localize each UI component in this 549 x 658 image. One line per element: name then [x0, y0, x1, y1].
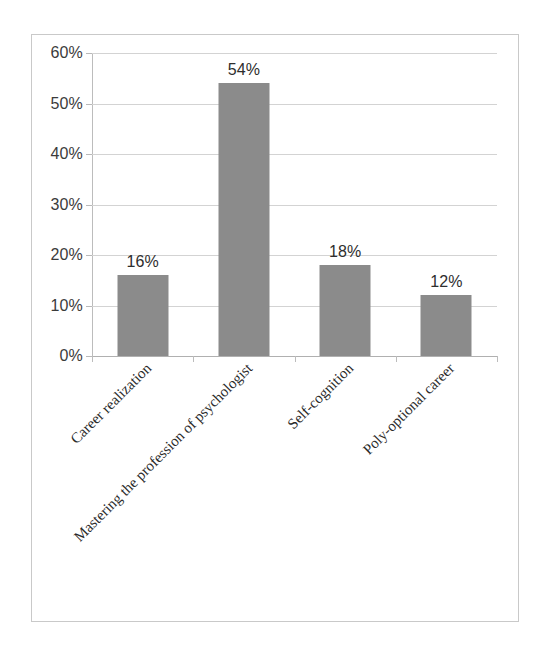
- bar-value-label: 54%: [228, 61, 260, 79]
- x-axis-tick-mark: [497, 356, 498, 362]
- y-axis-tick-label: 0%: [59, 347, 83, 365]
- y-axis-tick-label: 30%: [50, 196, 83, 214]
- bar[interactable]: [218, 83, 269, 356]
- y-axis-tick-label: 50%: [50, 95, 83, 113]
- bar-value-label: 16%: [127, 253, 159, 271]
- x-axis-tick-mark: [396, 356, 397, 362]
- y-axis-tick-label: 10%: [50, 297, 83, 315]
- bar-value-label: 12%: [430, 273, 462, 291]
- bar-category-slot: 16%: [92, 53, 193, 356]
- x-axis-tick-mark: [92, 356, 93, 362]
- y-axis-tick-label: 60%: [50, 44, 83, 62]
- y-axis-tick-label: 20%: [50, 246, 83, 264]
- x-axis-tick-mark: [295, 356, 296, 362]
- y-axis-tick-label: 40%: [50, 145, 83, 163]
- x-axis-tick-mark: [193, 356, 194, 362]
- chart-page: 0%10%20%30%40%50%60% 16%54%18%12% Career…: [0, 0, 549, 658]
